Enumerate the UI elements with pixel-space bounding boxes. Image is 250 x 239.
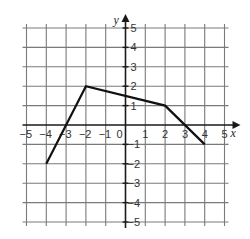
coordinate-plane: xy−5−4−3−2−1012345−5−4−3−2−112345 xyxy=(0,0,250,239)
y-tick-label: −2 xyxy=(128,158,141,170)
y-tick-label: −1 xyxy=(128,138,141,150)
y-tick-label: −3 xyxy=(128,177,141,189)
y-tick-label: 1 xyxy=(131,100,137,112)
x-tick-label: −1 xyxy=(99,128,112,140)
y-tick-label: 5 xyxy=(131,22,137,34)
x-tick-label: 4 xyxy=(202,128,208,140)
x-tick-label: 0 xyxy=(117,128,123,140)
y-axis-label: y xyxy=(113,13,120,27)
x-tick-label: −4 xyxy=(39,128,52,140)
y-tick-label: −4 xyxy=(128,197,141,209)
x-tick-label: 1 xyxy=(142,128,148,140)
x-tick-label: −5 xyxy=(20,128,33,140)
x-tick-label: 5 xyxy=(222,128,228,140)
y-tick-label: 2 xyxy=(131,80,137,92)
y-tick-label: 3 xyxy=(131,61,137,73)
x-tick-label: −2 xyxy=(79,128,92,140)
x-tick-label: 2 xyxy=(162,128,168,140)
y-tick-label: −5 xyxy=(128,216,141,228)
y-axis-arrow-icon xyxy=(122,14,130,22)
y-tick-label: 4 xyxy=(131,41,137,53)
x-axis-label: x xyxy=(230,126,237,140)
x-tick-label: 3 xyxy=(182,128,188,140)
